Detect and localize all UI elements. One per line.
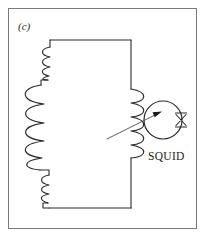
circuit-diagram-svg: (c) SQUID <box>0 0 205 237</box>
squid-label: SQUID <box>148 150 185 162</box>
lower-left-coil <box>41 175 49 203</box>
left-main-coil <box>25 85 44 170</box>
figure-panel-c: (c) SQUID <box>0 0 205 237</box>
squid-ring <box>144 101 182 139</box>
lower-left-bottom-step <box>43 203 49 208</box>
panel-label: (c) <box>18 20 31 33</box>
upper-left-bottom-step <box>41 80 48 85</box>
upper-left-coil <box>42 47 50 80</box>
flux-arrow-head <box>153 112 163 118</box>
left-coil-bottom-step <box>40 170 49 175</box>
figure-frame <box>9 9 197 229</box>
